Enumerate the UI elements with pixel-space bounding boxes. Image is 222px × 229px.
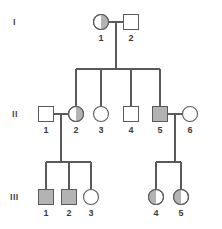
symbol-I-2-male-unaffected	[124, 15, 139, 30]
symbol-II-1-male-unaffected	[39, 107, 54, 122]
id-label-III-1: 1	[43, 208, 48, 218]
individual-III-1	[39, 190, 54, 205]
generation-labels-layer: IIIIII	[10, 17, 19, 202]
id-label-II-4: 4	[128, 125, 133, 135]
mate-II1-II2	[54, 114, 68, 162]
individual-III-2	[62, 190, 77, 205]
pedigree-chart: 1212345612345 IIIIII	[0, 0, 222, 229]
generation-label-III: III	[10, 192, 19, 202]
symbol-III-2-male-affected	[62, 190, 77, 205]
mate-I1-I2	[109, 22, 123, 69]
id-label-II-2: 2	[73, 125, 78, 135]
individual-III-5	[174, 190, 189, 205]
individual-III-4	[149, 190, 164, 205]
symbol-II-4-male-unaffected	[124, 107, 139, 122]
individual-symbols-layer	[39, 15, 198, 205]
generation-label-II: II	[12, 109, 18, 119]
individual-I-1	[94, 15, 109, 30]
id-label-III-4: 4	[153, 208, 158, 218]
id-label-II-3: 3	[98, 125, 103, 135]
symbol-II-6-female-unaffected	[183, 107, 198, 122]
symbol-II-3-female-unaffected	[94, 107, 109, 122]
symbol-I-1-female-carrier-half-fill	[101, 15, 109, 30]
individual-II-3	[94, 107, 109, 122]
id-label-I-1: 1	[98, 33, 103, 43]
symbol-II-5-male-affected	[153, 107, 168, 122]
symbol-III-1-male-affected	[39, 190, 54, 205]
mate-II5-II6	[168, 114, 182, 162]
pedigree-canvas: 1212345612345 IIIIII	[0, 0, 222, 229]
sibship-gen2	[76, 69, 160, 106]
generation-label-I: I	[13, 17, 16, 27]
id-label-II-6: 6	[187, 125, 192, 135]
individual-I-2	[124, 15, 139, 30]
individual-II-1	[39, 107, 54, 122]
symbol-II-2-female-carrier-half-fill	[76, 107, 84, 122]
individual-II-6	[183, 107, 198, 122]
individual-II-2	[69, 107, 84, 122]
id-label-III-3: 3	[88, 208, 93, 218]
id-label-II-5: 5	[157, 125, 162, 135]
sibship-gen3-right	[156, 162, 181, 189]
sibship-gen3-left	[46, 162, 91, 189]
symbol-III-3-female-unaffected	[84, 190, 99, 205]
id-label-II-1: 1	[43, 125, 48, 135]
individual-III-3	[84, 190, 99, 205]
individual-II-5	[153, 107, 168, 122]
individual-II-4	[124, 107, 139, 122]
symbol-III-5-female-carrier-half-fill	[174, 190, 181, 205]
id-label-I-2: 2	[128, 33, 133, 43]
id-label-III-2: 2	[66, 208, 71, 218]
symbol-III-4-female-carrier-half-fill	[149, 190, 156, 205]
connector-lines-layer	[46, 22, 182, 189]
id-label-III-5: 5	[178, 208, 183, 218]
